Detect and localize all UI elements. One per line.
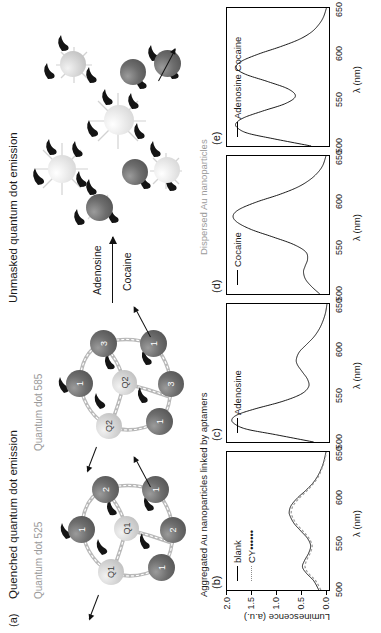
x-axis-label-b: λ (nm): [351, 510, 362, 537]
legend-c-adenosine: Adenosine: [232, 370, 243, 433]
x-tick-d-550: 550: [334, 240, 344, 255]
panel-e-tag: (e): [210, 132, 222, 145]
quantum-dot-525-label: Quantum dot 525: [34, 522, 44, 599]
x-tick-e-550: 550: [334, 92, 344, 107]
y-tick-1-0: 1.0: [271, 597, 281, 619]
y-tick-2-0: 2.0: [222, 597, 232, 619]
panel-b-tag: (b): [210, 576, 222, 589]
series-cy: [291, 452, 326, 590]
particle-1-a: 1: [68, 516, 95, 543]
particle-3-b: 3: [158, 371, 184, 397]
cluster-quenched-585: Q2 Q2 1 1 1 3 3: [52, 315, 184, 455]
particle-Q2-a: Q2: [96, 413, 122, 439]
x-tick-d-500: 500: [334, 286, 344, 301]
y-tick-0-0: 0.0: [321, 597, 331, 619]
x-tick-e-500: 500: [334, 138, 344, 153]
figure-root: (a) Quenched quantum dot emission Unmask…: [0, 0, 381, 633]
x-tick-c-550: 550: [334, 388, 344, 403]
reaction-label-adenosine: Adenosine: [92, 245, 103, 295]
dispersed-qd-1: [48, 155, 76, 183]
group-label-aggregated: Aggregated Au nanoparticles linked by ap…: [198, 393, 209, 597]
x-tick-d-600: 600: [334, 194, 344, 209]
particle-3-a: 3: [90, 330, 117, 357]
particle-2-a: 2: [92, 476, 119, 503]
cluster-quenched-525: Q1 Q1 1 1 1 2 2: [52, 463, 184, 603]
x-tick-b-550: 550: [334, 536, 344, 551]
series-adenosine-cocaine: [235, 8, 326, 146]
quantum-dot-585-label: Quantum dot 585: [34, 374, 44, 451]
particle-1-d: 1: [66, 370, 93, 397]
y-tickmark-2: [276, 591, 277, 595]
legend-e-adenosine-cocaine: Adenosine Cocaine: [232, 37, 243, 137]
particle-Q1-b: Q1: [114, 516, 139, 541]
legend-line-solid: [237, 122, 238, 137]
legend-line-dotted: [251, 566, 252, 581]
x-tick-e-600: 600: [334, 46, 344, 61]
series-cocaine: [233, 156, 326, 294]
particle-1-e: 1: [146, 408, 173, 435]
reaction-label-cocaine: Cocaine: [122, 252, 133, 291]
legend-d-cocaine: Cocaine: [232, 232, 243, 285]
particle-Q1-a: Q1: [98, 559, 124, 585]
cluster-dispersed: [28, 3, 188, 229]
x-tick-e-650: 650: [334, 2, 344, 17]
dispersed-au-2: [122, 159, 148, 185]
y-tickmark-4: [226, 591, 227, 595]
x-axis-label-c: λ (nm): [351, 362, 362, 389]
reaction-arrow: [112, 237, 113, 303]
dispersed-qd-3: [60, 51, 86, 77]
y-tickmark-3: [251, 591, 252, 595]
dispersed-qd-4: [154, 157, 180, 183]
particle-1-f: 1: [140, 330, 167, 357]
quenched-state-title: Quenched quantum dot emission: [8, 430, 20, 599]
legend-line-solid: [237, 566, 238, 581]
particle-2-b: 2: [160, 517, 186, 543]
x-tick-c-500: 500: [334, 434, 344, 449]
legend-line-solid: [237, 418, 238, 433]
y-tickmark-0: [326, 591, 327, 595]
series-adenosine: [232, 304, 327, 442]
panel-d-tag: (d): [210, 280, 222, 293]
x-axis-label-e: λ (nm): [351, 66, 362, 93]
group-label-dispersed: Dispersed Au nanoparticles: [198, 139, 209, 255]
particle-Q2-b: Q2: [112, 370, 137, 395]
panel-a-tag: (a): [8, 614, 19, 627]
legend-b-blank: blank: [232, 540, 243, 581]
particle-1-b: 1: [148, 554, 175, 581]
legend-line-solid: [237, 270, 238, 285]
dispersed-au-1: [86, 194, 113, 221]
legend-b-cy: CY••••••: [246, 530, 257, 581]
y-tick-0-5: 0.5: [296, 597, 306, 619]
panel-c-tag: (c): [210, 428, 222, 441]
dispersed-au-3: [120, 59, 146, 85]
x-tick-b-500: 500: [334, 582, 344, 597]
x-axis-label-d: λ (nm): [351, 214, 362, 241]
dispersed-qd-2: [104, 105, 134, 135]
y-tick-1-5: 1.5: [246, 597, 256, 619]
y-tickmark-1: [301, 591, 302, 595]
panel-a-schematic: (a) Quenched quantum dot emission Unmask…: [0, 0, 196, 633]
y-axis-label: Luminescence (a.u.): [244, 612, 330, 623]
unmasked-state-title: Unmasked quantum dot emission: [8, 132, 20, 303]
panel-spectra: Aggregated Au nanoparticles linked by ap…: [196, 0, 381, 633]
x-tick-c-600: 600: [334, 342, 344, 357]
x-tick-b-600: 600: [334, 490, 344, 505]
